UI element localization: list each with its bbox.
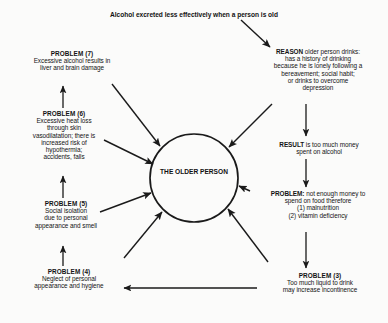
node-problem-money-header: PROBLEM: [271,190,305,197]
node-reason-line-5: depression [250,84,386,91]
node-problem-money-header-line: PROBLEM: not enough money to [248,190,388,197]
node-result-header-line: RESULT is too much money [252,141,386,148]
node-problem-7-line-1: Excessive alcohol results in [6,57,138,64]
node-reason-header-line: REASON older person drinks: [250,48,386,55]
center-circle [150,134,238,222]
node-reason-line-1: has a history of drinking [250,55,386,62]
node-problem-7-line-2: liver and brain damage [6,64,138,71]
node-problem-money-header-text: not enough money to [304,190,365,197]
node-result: RESULT is too much money spent on alcoho… [252,141,386,155]
node-reason-line-4: or drinks to overcome [250,77,386,84]
center-circle-label: THE OLDER PERSON [150,168,238,176]
node-problem-4-line-1: Neglect of personal [4,275,134,282]
node-problem-5: PROBLEM (5) Social isolation due to pers… [6,200,126,229]
node-reason-header-text: older person drinks: [303,48,360,55]
node-result-header: RESULT [279,141,304,148]
node-problem-6-line-6: accidents, falls [4,153,124,160]
node-problem-4: PROBLEM (4) Neglect of personal appearan… [4,268,134,290]
node-problem-5-line-1: Social isolation [6,207,126,214]
node-problem-7: PROBLEM (7) Excessive alcohol results in… [6,50,138,72]
connector-problem4-to-center [124,212,162,258]
center-label-line-1: THE OLDER [160,168,198,175]
node-problem-5-header: PROBLEM (5) [6,200,126,207]
node-problem-5-line-2: due to personal [6,214,126,221]
node-problem-6: PROBLEM (6) Excessive heat loss through … [4,110,124,160]
node-problem-3-header: PROBLEM (3) [252,272,388,279]
node-problem-5-line-3: appearance and smell [6,222,126,229]
node-problem-3-line-2: may increase incontinence [252,286,388,293]
node-problem-6-line-2: through skin [4,124,124,131]
node-result-header-text: is too much money [304,141,359,148]
node-result-line-1: spent on alcohol [252,148,386,155]
node-problem-money-line-2: (1) malnutrition [248,204,388,211]
center-label-line-2: PERSON [200,168,228,175]
node-problem-6-line-3: vasodilatation; there is [4,132,124,139]
node-problem-7-header: PROBLEM (7) [6,50,138,57]
node-problem-6-line-4: increased risk of [4,139,124,146]
node-problem-money-line-1: spend on food therefore [248,197,388,204]
node-reason-line-3: bereavement; social habit; [250,70,386,77]
node-reason-line-2: because he is lonely following a [250,62,386,69]
node-problem-4-header: PROBLEM (4) [4,268,134,275]
diagram-canvas: Alcohol excreted less effectively when a… [0,0,388,323]
node-reason: REASON older person drinks: has a histor… [250,48,386,91]
node-problem-3-line-1: Too much liquid to drink [252,279,388,286]
node-problem-6-header: PROBLEM (6) [4,110,124,117]
node-problem-money-line-3: (2) vitamin deficiency [248,212,388,219]
node-problem-4-line-2: appearance and hygiene [4,282,134,289]
node-problem-6-line-5: hypothermia; [4,146,124,153]
connector-title-to-reason [241,20,270,47]
node-problem-6-line-1: Excessive heat loss [4,117,124,124]
node-problem-3: PROBLEM (3) Too much liquid to drink may… [252,272,388,294]
node-problem-money: PROBLEM: not enough money to spend on fo… [248,190,388,219]
node-reason-header: REASON [276,48,303,55]
